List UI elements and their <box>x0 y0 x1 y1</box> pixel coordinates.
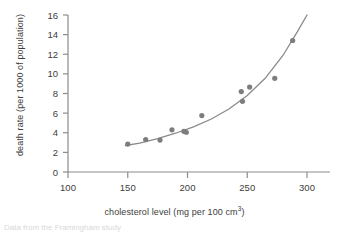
data-point <box>143 137 148 142</box>
x-tick-label: 150 <box>120 182 136 193</box>
y-tick-label: 0 <box>53 167 58 178</box>
x-axis-title: cholesterol level (mg per 100 cm3) <box>0 205 349 217</box>
x-tick-label: 250 <box>239 182 255 193</box>
y-tick-label: 4 <box>53 127 58 138</box>
y-tick-label: 6 <box>53 108 58 119</box>
data-points <box>125 38 295 147</box>
y-axis-ticks: 0246810121416 <box>47 10 68 178</box>
y-tick-label: 16 <box>47 10 58 21</box>
data-point <box>247 85 252 90</box>
data-point <box>240 99 245 104</box>
x-axis-title-suffix: ) <box>241 207 244 217</box>
data-point <box>239 89 244 94</box>
data-point <box>169 127 174 132</box>
data-point <box>199 113 204 118</box>
fitted-curve <box>125 15 307 146</box>
scatter-plot: 0246810121416 100150200250300 <box>0 0 349 233</box>
x-tick-label: 200 <box>180 182 196 193</box>
chart-figure: 0246810121416 100150200250300 death rate… <box>0 0 349 233</box>
y-tick-label: 2 <box>53 147 58 158</box>
footer-note: Data from the Framingham study <box>4 223 121 232</box>
x-tick-label: 300 <box>299 182 315 193</box>
data-point <box>290 38 295 43</box>
x-axis-title-main: cholesterol level (mg per 100 cm <box>104 207 237 217</box>
axes <box>68 15 330 172</box>
data-point <box>157 138 162 143</box>
y-tick-label: 14 <box>47 29 58 40</box>
y-axis-title: death rate (per 1000 of population) <box>15 10 25 160</box>
x-axis-ticks: 100150200250300 <box>60 172 315 193</box>
data-point <box>272 76 277 81</box>
y-tick-label: 12 <box>47 49 58 60</box>
y-tick-label: 10 <box>47 68 58 79</box>
y-tick-label: 8 <box>53 88 58 99</box>
data-point <box>125 141 130 146</box>
x-tick-label: 100 <box>60 182 76 193</box>
data-point <box>184 130 189 135</box>
